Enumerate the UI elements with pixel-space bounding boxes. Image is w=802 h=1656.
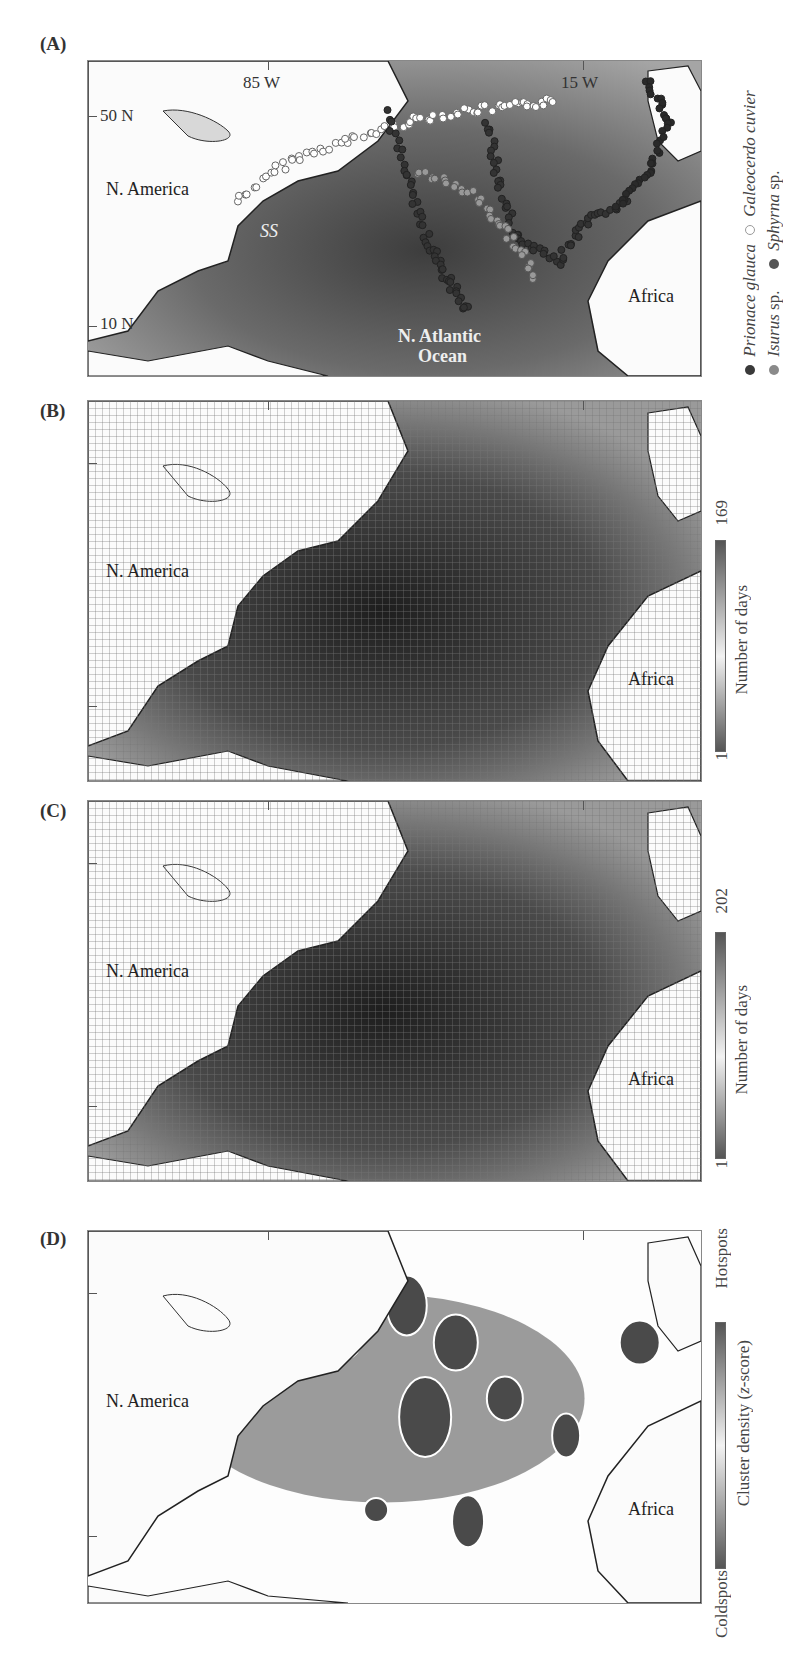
track-point	[409, 200, 416, 207]
track-point	[455, 298, 462, 305]
tick-50n	[88, 863, 97, 864]
open-circle-icon	[745, 225, 755, 235]
track-point	[417, 114, 424, 121]
track-point	[326, 146, 333, 153]
tick-85w	[268, 1231, 269, 1240]
colorbar-c-max: 202	[712, 888, 732, 914]
track-point	[403, 171, 410, 178]
panel-b-days-map: N. AmericaAfrica	[87, 400, 702, 782]
track-point	[612, 203, 619, 210]
panel-a-track-map: 85 W 15 W 50 N 10 N N. America Africa N.…	[87, 60, 702, 377]
panel-b-label: (B)	[40, 400, 65, 422]
colorbar-d-max: Hotspots	[712, 1228, 732, 1288]
track-point	[549, 99, 556, 106]
track-point	[279, 159, 286, 166]
legend-column-1: Prionace glauca Galeocerdo cuvier	[740, 60, 760, 375]
track-point	[481, 102, 488, 109]
track-point	[504, 203, 511, 210]
label-africa: Africa	[628, 1069, 674, 1090]
label-africa: Africa	[628, 286, 674, 307]
track-point	[429, 112, 436, 119]
track-point	[575, 234, 582, 241]
track-point	[311, 150, 318, 157]
filled-dot-icon	[769, 259, 779, 269]
track-point	[647, 160, 654, 167]
lat-label-50n: 50 N	[100, 106, 134, 126]
track-point	[289, 156, 296, 163]
track-point	[407, 181, 414, 188]
filled-dot-icon	[745, 365, 755, 375]
track-point	[451, 183, 458, 190]
tick-50n	[88, 1293, 97, 1294]
map-canvas	[88, 61, 701, 376]
track-point	[384, 107, 391, 114]
track-point	[660, 134, 667, 141]
tick-85w	[268, 801, 269, 810]
tick-15w	[583, 1231, 584, 1240]
track-point	[296, 157, 303, 164]
track-point	[523, 103, 530, 110]
track-point	[419, 213, 426, 220]
track-point	[447, 279, 454, 286]
tick-10n	[88, 326, 97, 327]
track-point	[235, 192, 242, 199]
track-point	[487, 153, 494, 160]
track-point	[409, 191, 416, 198]
legend-item-prionace: Prionace glauca	[740, 244, 759, 375]
track-point	[490, 169, 497, 176]
lon-label-85w: 85 W	[243, 73, 280, 93]
track-point	[482, 119, 489, 126]
track-point	[243, 191, 250, 198]
track-point	[567, 242, 574, 249]
track-point	[360, 134, 367, 141]
legend-column-2: Isurus sp. Sphyrna sp.	[764, 60, 784, 375]
track-point	[485, 129, 492, 136]
track-point	[518, 252, 525, 259]
track-point	[431, 175, 438, 182]
map-canvas	[88, 1231, 701, 1603]
track-point	[503, 235, 510, 242]
track-point	[460, 304, 467, 311]
tick-10n	[88, 1106, 97, 1107]
label-north-america: N. America	[106, 179, 189, 200]
colorbar-b	[715, 540, 726, 752]
track-point	[510, 233, 517, 240]
hotspot	[552, 1414, 580, 1458]
panel-d-hotspot-map: N. AmericaAfrica	[87, 1230, 702, 1604]
tick-85w	[268, 401, 269, 410]
track-point	[388, 118, 395, 125]
track-point	[392, 130, 399, 137]
label-africa: Africa	[628, 1499, 674, 1520]
hotspot	[364, 1498, 388, 1522]
hotspot	[434, 1315, 478, 1371]
tick-15w	[583, 801, 584, 810]
track-point	[489, 108, 496, 115]
label-ocean-line1: N. Atlantic	[398, 326, 481, 347]
track-point	[272, 162, 279, 169]
track-point	[470, 187, 477, 194]
tick-85w	[268, 61, 269, 70]
filled-dot-icon	[769, 365, 779, 375]
track-point	[439, 266, 446, 273]
tick-50n	[88, 463, 97, 464]
track-point	[487, 215, 494, 222]
colorbar-c-title: Number of days	[732, 985, 752, 1095]
label-north-america: N. America	[106, 561, 189, 582]
track-point	[550, 253, 557, 260]
track-point	[415, 169, 422, 176]
track-point	[494, 184, 501, 191]
track-point	[641, 174, 648, 181]
track-point	[512, 99, 519, 106]
track-point	[620, 200, 627, 207]
hotspot	[399, 1377, 451, 1457]
map-canvas	[88, 801, 701, 1181]
track-point	[647, 91, 654, 98]
legend-item-sphyrna: Sphyrna sp.	[764, 171, 783, 270]
track-point	[440, 115, 447, 122]
lat-label-10n: 10 N	[100, 314, 134, 334]
track-point	[342, 135, 349, 142]
label-north-america: N. America	[106, 961, 189, 982]
colorbar-d-min: Coldspots	[712, 1570, 732, 1638]
track-point	[461, 105, 468, 112]
track-point	[654, 147, 661, 154]
